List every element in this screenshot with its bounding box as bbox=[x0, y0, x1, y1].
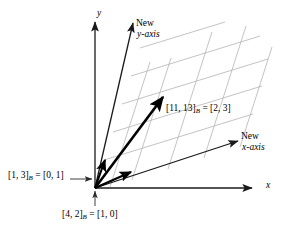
vector-coordinate-label: [11, 13]B = [2, 3] bbox=[166, 103, 231, 114]
basis-x-coordinate-subscript: B bbox=[83, 213, 87, 221]
basis-x-coordinate-label: [4, 2]B = [1, 0] bbox=[62, 209, 118, 220]
new-y-axis-label: New y-axis bbox=[136, 18, 160, 40]
basis-x-coordinate-bracket: [4, 2] bbox=[62, 209, 83, 219]
new-y-axis-label-line2: y-axis bbox=[136, 29, 160, 40]
new-y-axis-label-line1: New bbox=[136, 18, 154, 28]
vector-coordinate-equals: = [2, 3] bbox=[200, 103, 231, 113]
y-axis-label: y bbox=[97, 8, 101, 19]
basis-x-coordinate-equals: = [1, 0] bbox=[87, 209, 118, 219]
basis-y-coordinate-equals: = [0, 1] bbox=[33, 170, 64, 180]
basis-y-coordinate-subscript: B bbox=[29, 174, 33, 182]
new-x-axis bbox=[95, 141, 238, 188]
x-axis-label: x bbox=[266, 180, 270, 191]
basis-y-coordinate-bracket: [1, 3] bbox=[8, 170, 29, 180]
vector-coordinate-bracket: [11, 13] bbox=[166, 103, 196, 113]
new-x-axis-label-line2: x-axis bbox=[241, 142, 265, 153]
basis-y-coordinate-label: [1, 3]B = [0, 1] bbox=[8, 170, 64, 181]
new-x-axis-label: New x-axis bbox=[241, 131, 265, 153]
change-of-basis-figure: y x New y-axis New x-axis [11, 13]B = [2… bbox=[0, 0, 288, 232]
vector-coordinate-subscript: B bbox=[196, 107, 200, 115]
new-x-axis-label-line1: New bbox=[241, 131, 259, 141]
